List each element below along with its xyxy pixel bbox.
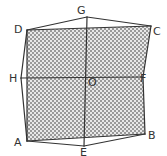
segment-GC [87, 17, 151, 26]
point-label-A: A [14, 136, 22, 149]
point-label-F: F [140, 72, 146, 85]
point-label-E: E [80, 146, 87, 156]
point-label-H: H [9, 72, 17, 85]
segment-EA [27, 141, 84, 146]
segment-AH [21, 78, 27, 141]
geometry-diagram: ABCDEFGHO [0, 0, 167, 156]
segment-HD [21, 30, 27, 78]
point-label-B: B [148, 129, 156, 142]
point-label-O: O [88, 76, 97, 89]
point-label-D: D [14, 23, 22, 36]
point-label-C: C [153, 25, 161, 38]
point-label-G: G [77, 4, 86, 17]
